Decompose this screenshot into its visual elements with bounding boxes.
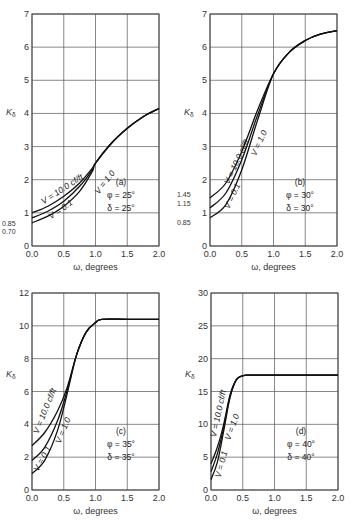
panel-c-annotations: (c) φ = 35° δ = 35° — [107, 426, 135, 462]
y-tick-label: 5 — [203, 452, 208, 462]
panel-b-annotations: (b) φ = 30° δ = 30° 1.45 1.15 0.85 — [177, 177, 314, 226]
y-axis-title: Kδ — [184, 107, 194, 118]
x-tick-label: 2.0 — [153, 249, 166, 259]
y-tick-label: 2 — [24, 452, 29, 462]
x-tick-label: 1.0 — [89, 493, 102, 503]
y-tick-label: 2 — [24, 175, 29, 185]
y-tick-label: 3 — [202, 142, 207, 152]
x-tick-label: 1.5 — [121, 493, 134, 503]
y-tick-label: 7 — [24, 9, 29, 19]
curve-label-v10: V = 10.0 cf/ft — [222, 137, 252, 185]
x-tick-label: 0.5 — [235, 249, 248, 259]
x-axis-title: ω, degrees — [73, 262, 118, 272]
y-tick-label: 7 — [202, 9, 207, 19]
x-tick-label: 1.0 — [89, 249, 102, 259]
panel-label-c: (c) — [116, 426, 126, 436]
y-tick-label: 10 — [198, 419, 208, 429]
intercept-label-070-a: 0.70 — [2, 228, 16, 235]
panel-d-annotations: (d) φ = 40° δ = 40° — [287, 426, 315, 462]
x-tick-label: 1.5 — [299, 249, 312, 259]
y-tick-label: 5 — [24, 75, 29, 85]
x-tick-label: 0.5 — [236, 493, 249, 503]
x-tick-label: 0.0 — [205, 493, 218, 503]
x-axis-title: ω, degrees — [73, 506, 118, 516]
phi-label-b: φ = 30° — [286, 190, 314, 200]
curve-label-v1: V = 1.0 — [53, 416, 73, 445]
y-tick-label: 6 — [24, 42, 29, 52]
y-tick-label: 3 — [24, 142, 29, 152]
x-axis-title: ω, degrees — [252, 506, 297, 516]
x-tick-label: 2.0 — [331, 249, 344, 259]
y-tick-label: 2 — [202, 175, 207, 185]
x-tick-label: 1.5 — [121, 249, 134, 259]
y-tick-label: 25 — [198, 321, 208, 331]
delta-label-c: δ = 35° — [107, 452, 134, 462]
delta-label-b: δ = 30° — [286, 203, 313, 213]
intercept-label-115-b: 1.15 — [177, 200, 191, 207]
intercept-label-085-a: 0.85 — [2, 220, 16, 227]
intercept-label-085-b: 0.85 — [177, 219, 191, 226]
x-tick-label: 0.0 — [204, 249, 217, 259]
y-axis-title: Kδ — [6, 369, 16, 380]
delta-label-d: δ = 40° — [287, 452, 314, 462]
x-tick-label: 2.0 — [332, 493, 345, 503]
y-tick-label: 20 — [198, 354, 208, 364]
x-tick-label: 2.0 — [153, 493, 166, 503]
y-tick-label: 1 — [202, 208, 207, 218]
phi-label-d: φ = 40° — [287, 439, 315, 449]
y-axis-title: Kδ — [185, 369, 195, 380]
y-tick-label: 1 — [24, 208, 29, 218]
x-tick-label: 1.0 — [267, 249, 280, 259]
y-tick-label: 12 — [19, 288, 29, 298]
x-tick-label: 1.0 — [268, 493, 281, 503]
panel-label-a: (a) — [116, 177, 127, 187]
figure: 012345670.00.51.01.52.0ω, degreesKδV = 1… — [0, 0, 351, 524]
panel-label-d: (d) — [296, 426, 307, 436]
chart-panel-d: 0510152025300.00.51.01.52.0ω, degreesKδV… — [185, 288, 344, 516]
y-tick-label: 15 — [198, 387, 208, 397]
x-tick-label: 1.5 — [300, 493, 313, 503]
intercept-label-145-b: 1.45 — [177, 191, 191, 198]
y-tick-label: 4 — [24, 108, 29, 118]
y-tick-label: 5 — [202, 75, 207, 85]
panel-label-b: (b) — [295, 177, 306, 187]
y-tick-label: 6 — [24, 387, 29, 397]
y-tick-label: 30 — [198, 288, 208, 298]
chart-panel-a: 012345670.00.51.01.52.0ω, degreesKδV = 1… — [6, 9, 165, 272]
x-tick-label: 0.5 — [57, 249, 70, 259]
delta-label-a: δ = 25° — [107, 203, 134, 213]
x-tick-label: 0.0 — [26, 493, 39, 503]
x-tick-label: 0.5 — [57, 493, 70, 503]
chart-panel-b: 012345670.00.51.01.52.0ω, degreesKδV = 1… — [184, 9, 343, 272]
x-tick-label: 0.0 — [26, 249, 39, 259]
y-tick-label: 10 — [19, 321, 29, 331]
x-axis-title: ω, degrees — [251, 262, 296, 272]
phi-label-a: φ = 25° — [107, 190, 135, 200]
y-tick-label: 8 — [24, 354, 29, 364]
chart-panel-c: 0246810120.00.51.01.52.0ω, degreesKδV = … — [6, 288, 165, 516]
y-tick-label: 4 — [24, 419, 29, 429]
curve-label-v01: V = 0.1 — [222, 181, 243, 210]
y-axis-title: Kδ — [6, 107, 16, 118]
y-tick-label: 4 — [202, 108, 207, 118]
phi-label-c: φ = 35° — [107, 439, 135, 449]
y-tick-label: 6 — [202, 42, 207, 52]
